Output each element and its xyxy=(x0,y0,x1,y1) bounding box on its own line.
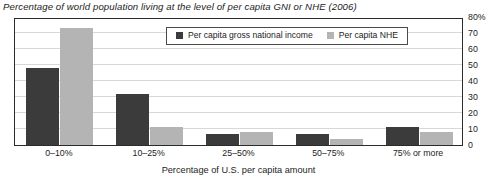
x-axis-tick-label: 75% or more xyxy=(373,149,463,158)
chart-container: Percentage of world population living at… xyxy=(0,0,496,179)
bar xyxy=(26,68,59,145)
x-axis: 0–10%10–25%25–50%50–75%75% or more xyxy=(14,149,463,162)
legend-label-gni: Per capita gross national income xyxy=(188,31,313,40)
bar xyxy=(386,127,419,145)
y-axis-tick-label: 70 xyxy=(468,29,478,38)
y-axis-tick-label: 10 xyxy=(468,125,478,134)
x-axis-tick-label: 10–25% xyxy=(104,149,194,158)
y-axis-tick-label: 80% xyxy=(468,13,486,22)
legend-item-gni[interactable]: Per capita gross national income xyxy=(176,31,313,40)
bar xyxy=(206,134,239,145)
legend-swatch-icon-nhe xyxy=(327,32,334,39)
bar xyxy=(60,28,93,145)
x-axis-title: Percentage of U.S. per capita amount xyxy=(14,165,463,175)
chart-title: Percentage of world population living at… xyxy=(3,1,357,12)
legend-label-nhe: Per capita NHE xyxy=(339,31,398,40)
bar xyxy=(420,132,453,145)
legend-item-nhe[interactable]: Per capita NHE xyxy=(327,31,398,40)
y-axis-tick-label: 0 xyxy=(468,141,473,150)
bar xyxy=(296,134,329,145)
x-axis-tick-label: 25–50% xyxy=(194,149,284,158)
y-axis-tick-label: 20 xyxy=(468,109,478,118)
bar-group xyxy=(26,19,93,145)
y-axis-tick-label: 50 xyxy=(468,61,478,70)
y-axis-tick-label: 60 xyxy=(468,45,478,54)
bar xyxy=(150,127,183,145)
bar xyxy=(330,139,363,145)
y-axis-tick-label: 30 xyxy=(468,93,478,102)
legend-swatch-icon-gni xyxy=(176,32,183,39)
y-axis: 80%706050403020100 xyxy=(468,18,496,146)
bar xyxy=(240,132,273,145)
x-axis-tick-label: 0–10% xyxy=(14,149,104,158)
bar xyxy=(116,94,149,145)
chart-legend: Per capita gross national income Per cap… xyxy=(166,27,408,45)
y-axis-tick-label: 40 xyxy=(468,77,478,86)
x-axis-tick-label: 50–75% xyxy=(283,149,373,158)
